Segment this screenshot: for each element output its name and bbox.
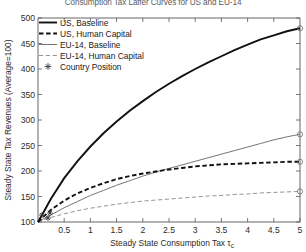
legend-swatch-country-position [45,63,52,70]
x-tick-label: 3 [193,225,198,235]
x-axis-title-subscript: c [231,242,235,249]
x-tick-label: 5 [298,225,303,235]
country-position-marker [47,210,53,216]
legend-label-us-human-capital: US, Human Capital [60,29,132,39]
x-axis-tick-labels: 0.5 1 1.5 2 2.5 3 3.5 4 4.5 5 [58,225,302,235]
x-axis-title-text: Steady State Consumption Tax τ [110,238,231,248]
legend-label-eu14-human-capital: EU-14, Human Capital [60,51,144,61]
y-tick-label: 500 [21,13,36,23]
x-axis-title: Steady State Consumption Tax τc [110,238,234,249]
y-tick-label: 100 [21,217,36,227]
curve-eu14-baseline [38,134,300,222]
chart-legend: US, Baseline US, Human Capital EU-14, Ba… [39,18,144,72]
y-tick-label: 250 [21,141,36,151]
y-tick-label: 150 [21,192,36,202]
legend-label-country-position: Country Position [60,62,122,72]
x-tick-label: 1.5 [111,225,123,235]
chart-figure: Consumption Tax Laffer Curves for US and… [0,0,306,252]
curve-eu14-human-capital [38,191,300,222]
x-tick-label: 3.5 [215,225,227,235]
curve-us-human-capital [38,162,300,222]
legend-label-us-baseline: US, Baseline [60,18,109,28]
y-axis-title: Steady State Tax Revenues (Average=100) [3,39,13,200]
y-tick-label: 300 [21,115,36,125]
x-tick-label: 2.5 [163,225,175,235]
y-tick-label: 450 [21,39,36,49]
y-tick-label: 400 [21,64,36,74]
laffer-curve-plot: 100 150 200 250 300 350 400 450 500 [0,0,306,252]
x-tick-label: 4 [245,225,250,235]
x-tick-label: 2 [140,225,145,235]
x-tick-label: 4.5 [268,225,280,235]
country-position-marker [39,212,45,218]
x-tick-label: 0.5 [58,225,70,235]
y-tick-label: 200 [21,166,36,176]
x-tick-label: 1 [88,225,93,235]
legend-label-eu14-baseline: EU-14, Baseline [60,40,121,50]
y-tick-label: 350 [21,90,36,100]
y-axis-tick-labels: 100 150 200 250 300 350 400 450 500 [21,13,36,227]
